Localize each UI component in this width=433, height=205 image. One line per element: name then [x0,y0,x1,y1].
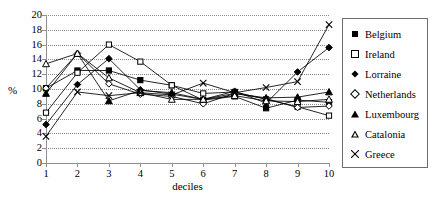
y-tick-label: 0 [20,158,42,169]
x-tick-mark [77,163,78,167]
gridline [46,133,329,134]
chart-screenshot: 02468101214161820 12345678910 % deciles … [0,0,433,205]
legend-label: Netherlands [365,89,416,100]
y-tick-label: 14 [20,54,42,65]
legend-item-netherlands[interactable]: Netherlands [348,84,427,104]
y-tick-label: 18 [20,25,42,36]
open-triangle-icon [348,127,362,141]
x-tick-label: 1 [34,169,58,180]
x-tick-label: 6 [191,169,215,180]
x-tick-label: 3 [97,169,121,180]
x-tick-mark [46,163,47,167]
x-axis-line [46,163,329,164]
gridline [46,148,329,149]
y-tick-mark [42,30,46,31]
gridline [46,30,329,31]
x-tick-label: 7 [223,169,247,180]
y-tick-label: 10 [20,84,42,95]
x-tick-label: 8 [254,169,278,180]
legend-item-luxembourg[interactable]: Luxembourg [348,104,427,124]
y-tick-mark [42,89,46,90]
x-tick-label: 9 [286,169,310,180]
gridline [46,74,329,75]
y-tick-mark [42,133,46,134]
x-tick-label: 10 [317,169,341,180]
y-axis-line [46,15,47,163]
gridline [46,45,329,46]
marker-glyph [351,70,358,77]
y-axis-label: % [8,84,17,96]
filled-square-icon [348,27,362,41]
y-tick-label: 16 [20,40,42,51]
x-tick-mark [329,163,330,167]
legend-box: BelgiumIrelandLorraineNetherlandsLuxembo… [342,18,428,168]
x-tick-label: 2 [65,169,89,180]
x-tick-label: 4 [128,169,152,180]
y-tick-label: 8 [20,99,42,110]
chart-area: 02468101214161820 12345678910 % deciles [0,0,340,205]
y-tick-label: 2 [20,143,42,154]
marker-glyph [352,31,358,37]
gridline [46,89,329,90]
x-tick-label: 5 [160,169,184,180]
x-tick-mark [140,163,141,167]
y-tick-mark [42,15,46,16]
x-tick-mark [109,163,110,167]
y-tick-label: 4 [20,128,42,139]
x-tick-mark [298,163,299,167]
y-tick-mark [42,119,46,120]
legend-label: Greece [365,149,395,160]
gridline [46,119,329,120]
marker-glyph [351,131,359,138]
y-tick-mark [42,148,46,149]
gridline [46,104,329,105]
marker-glyph [351,111,359,118]
legend-item-lorraine[interactable]: Lorraine [348,64,427,84]
open-diamond-icon [348,87,362,101]
cross-x-icon [348,147,362,161]
x-tick-mark [172,163,173,167]
legend-label: Catalonia [365,129,405,140]
open-square-icon [348,47,362,61]
legend-item-greece[interactable]: Greece [348,144,427,164]
x-tick-mark [235,163,236,167]
y-tick-mark [42,45,46,46]
legend-label: Lorraine [365,69,401,80]
marker-glyph [350,89,360,99]
x-tick-mark [266,163,267,167]
filled-triangle-icon [348,107,362,121]
legend-label: Belgium [365,29,401,40]
legend-item-ireland[interactable]: Ireland [348,44,427,64]
y-tick-label: 12 [20,69,42,80]
y-tick-label: 6 [20,114,42,125]
legend-label: Luxembourg [365,109,419,120]
y-tick-label: 20 [20,10,42,21]
x-tick-mark [203,163,204,167]
y-tick-mark [42,74,46,75]
marker-glyph [351,50,359,58]
x-axis-label: deciles [46,180,329,192]
gridline [46,59,329,60]
y-tick-mark [42,59,46,60]
legend-item-belgium[interactable]: Belgium [348,24,427,44]
gridline [46,15,329,16]
legend-label: Ireland [365,49,395,60]
legend-item-catalonia[interactable]: Catalonia [348,124,427,144]
y-tick-mark [42,104,46,105]
filled-diamond-icon [348,67,362,81]
